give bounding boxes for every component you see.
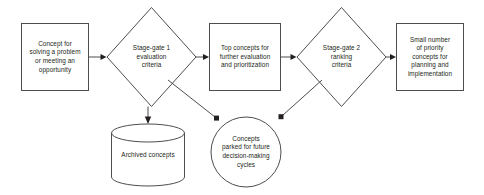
node-priority-concepts[interactable] [396,23,464,91]
edge-gate1-to-top [196,54,209,60]
node-stage-gate-2[interactable] [297,7,386,107]
node-stage-gate-1[interactable] [107,7,196,107]
flowchart-canvas: Concept for solving a problem or meeting… [0,0,484,195]
node-concept-input[interactable] [21,23,89,91]
edge-gate2-to-priority [386,54,396,60]
edge-gate1-to-archived [145,107,151,125]
edge-concept-to-gate1 [89,54,107,60]
node-parked-concepts[interactable] [211,117,281,187]
edge-top-to-gate2 [281,54,297,60]
node-top-concepts[interactable] [209,23,281,91]
node-archived-concepts[interactable] [111,124,185,186]
